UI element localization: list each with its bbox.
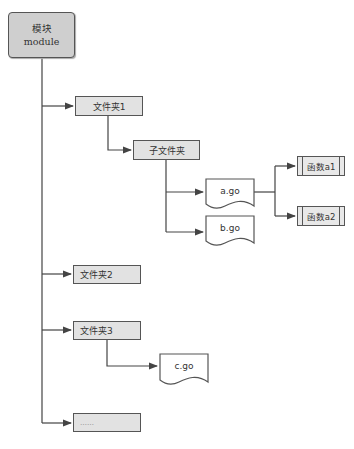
function-label: 函数a2 (307, 210, 336, 222)
file-label: c.go (159, 361, 209, 371)
subfolder-label: 子文件夹 (149, 144, 185, 157)
file-node-a-go: a.go (205, 178, 255, 210)
function-node-a1: 函数a1 (297, 156, 345, 176)
module-label-en: module (24, 35, 60, 48)
file-node-b-go: b.go (205, 215, 255, 247)
folder-label: …… (80, 419, 94, 427)
folder-node-1: 文件夹1 (75, 96, 143, 116)
subfolder-node: 子文件夹 (133, 140, 200, 160)
file-node-c-go: c.go (159, 353, 209, 386)
folder-label: 文件夹1 (93, 100, 126, 113)
function-label: 函数a1 (307, 160, 336, 172)
module-label-cn: 模块 (32, 22, 52, 35)
folder-label: 文件夹2 (80, 268, 113, 281)
folder-node-2: 文件夹2 (73, 265, 141, 284)
folder-node-3: 文件夹3 (73, 321, 141, 340)
module-root-node: 模块 module (8, 12, 75, 58)
folder-label: 文件夹3 (80, 324, 113, 337)
file-label: a.go (205, 186, 255, 196)
folder-node-more: …… (73, 413, 141, 432)
function-node-a2: 函数a2 (297, 206, 345, 226)
file-label: b.go (205, 223, 255, 233)
